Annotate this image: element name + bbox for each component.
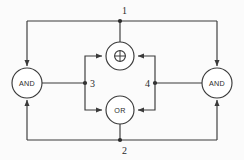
- and-left-label: AND: [19, 79, 35, 88]
- diagram-canvas: AND ⊕ OR AND 1 2 3 4: [0, 0, 244, 160]
- gate-and-left[interactable]: AND: [12, 68, 42, 98]
- node-label-1: 1: [122, 5, 127, 16]
- junction-dot-node2: [118, 138, 122, 142]
- logic-network-diagram: AND ⊕ OR AND 1 2 3 4: [0, 0, 244, 160]
- and-right-label: AND: [209, 79, 225, 88]
- node-label-3: 3: [90, 78, 95, 89]
- or-bottom-label: OR: [114, 106, 125, 115]
- gate-or-bottom[interactable]: OR: [106, 96, 134, 124]
- gate-and-right[interactable]: AND: [202, 68, 232, 98]
- junction-dot-node1: [118, 19, 122, 23]
- gate-xor-top[interactable]: ⊕: [106, 42, 134, 70]
- node-label-2: 2: [122, 145, 127, 156]
- and-left-output-group: [42, 81, 87, 85]
- and-right-output-group: [153, 81, 202, 85]
- node-label-4: 4: [145, 78, 150, 89]
